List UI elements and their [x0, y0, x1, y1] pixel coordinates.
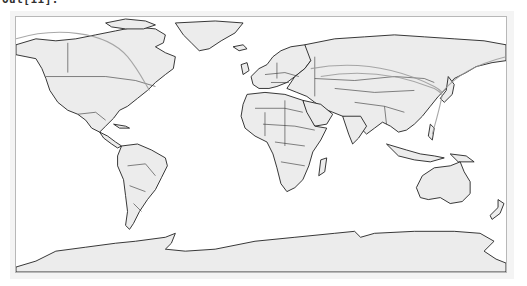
world-map — [15, 16, 507, 273]
map-canvas — [16, 17, 506, 272]
india — [343, 116, 367, 144]
new-guinea — [450, 154, 474, 162]
antarctica — [16, 231, 506, 272]
arctic-islands — [106, 19, 156, 29]
new-zealand — [490, 200, 504, 220]
north-america — [16, 27, 175, 132]
output-prompt: Out[11]: — [2, 0, 59, 6]
indonesia — [386, 144, 444, 162]
greenland — [175, 21, 243, 51]
madagascar — [319, 158, 327, 176]
uk — [241, 63, 249, 75]
iceland — [233, 45, 247, 51]
central-america — [100, 132, 122, 148]
south-america — [118, 144, 168, 229]
cuba — [114, 124, 130, 128]
australia — [416, 162, 470, 204]
